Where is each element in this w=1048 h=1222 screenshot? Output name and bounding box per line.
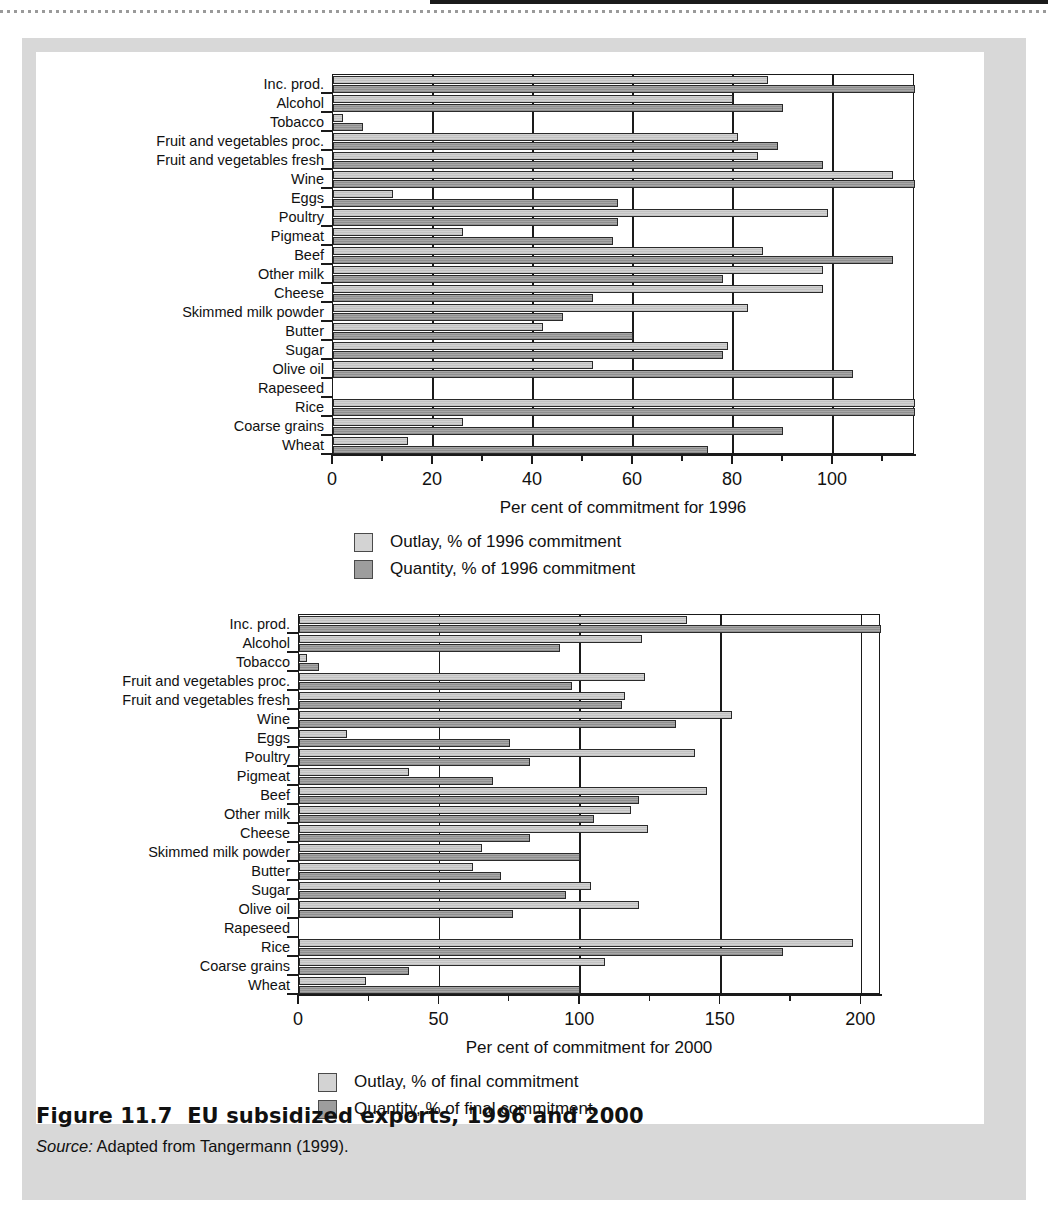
x-axis-tick-major bbox=[431, 454, 432, 464]
bar-outlay bbox=[299, 654, 307, 661]
legend-label: Outlay, % of final commitment bbox=[354, 1072, 579, 1092]
category-label: Fruit and vegetables fresh bbox=[0, 693, 290, 708]
bar-outlay bbox=[333, 190, 393, 197]
x-axis-tick-label: 50 bbox=[429, 1009, 449, 1030]
bar-quantity bbox=[333, 332, 633, 339]
category-label: Butter bbox=[24, 324, 324, 339]
gridline bbox=[532, 75, 534, 453]
y-axis-tick bbox=[321, 206, 332, 207]
legend-swatch-quantity bbox=[354, 560, 373, 579]
bar-outlay bbox=[333, 171, 893, 178]
gridline bbox=[432, 75, 434, 453]
chart-1996: Inc. prod.AlcoholTobaccoFruit and vegeta… bbox=[36, 52, 984, 552]
category-label: Rapeseed bbox=[24, 381, 324, 396]
bar-outlay bbox=[333, 247, 763, 254]
bar-quantity bbox=[333, 142, 778, 149]
y-axis-tick bbox=[287, 974, 298, 975]
y-axis-tick bbox=[321, 434, 332, 435]
y-axis-tick bbox=[321, 225, 332, 226]
y-axis-tick bbox=[287, 765, 298, 766]
y-axis-tick bbox=[287, 955, 298, 956]
x-axis-tick-label: 100 bbox=[564, 1009, 594, 1030]
category-label: Fruit and vegetables proc. bbox=[24, 134, 324, 149]
bar-quantity bbox=[299, 948, 783, 955]
gridline bbox=[579, 615, 581, 993]
x-axis-tick-label: 60 bbox=[622, 469, 642, 490]
bar-quantity bbox=[333, 351, 723, 358]
bar-quantity bbox=[333, 123, 363, 130]
y-axis-tick bbox=[287, 632, 298, 633]
category-label: Wine bbox=[0, 712, 290, 727]
chart-2000: Inc. prod.AlcoholTobaccoFruit and vegeta… bbox=[36, 592, 984, 1122]
y-axis-tick bbox=[287, 936, 298, 937]
category-label: Other milk bbox=[24, 267, 324, 282]
bar-outlay bbox=[299, 939, 853, 946]
bar-outlay bbox=[333, 228, 463, 235]
legend-label: Outlay, % of 1996 commitment bbox=[390, 532, 621, 552]
page-top-solid-rule bbox=[430, 0, 1048, 4]
y-axis-tick bbox=[321, 263, 332, 264]
bar-quantity bbox=[333, 427, 783, 434]
legend-swatch-outlay bbox=[354, 533, 373, 552]
x-axis-tick-label: 0 bbox=[327, 469, 337, 490]
y-axis-tick bbox=[287, 917, 298, 918]
bar-quantity bbox=[333, 446, 708, 453]
bar-outlay bbox=[299, 825, 648, 832]
y-axis-tick bbox=[321, 149, 332, 150]
category-label: Coarse grains bbox=[24, 419, 324, 434]
bar-outlay bbox=[299, 863, 473, 870]
category-label: Cheese bbox=[24, 286, 324, 301]
x-axis-title: Per cent of commitment for 2000 bbox=[466, 1038, 713, 1058]
bar-quantity bbox=[333, 256, 893, 263]
y-axis-tick bbox=[321, 282, 332, 283]
x-axis-tick-major bbox=[297, 994, 298, 1004]
y-axis-tick bbox=[321, 130, 332, 131]
category-label: Olive oil bbox=[24, 362, 324, 377]
bar-outlay bbox=[333, 133, 738, 140]
figure-caption: Figure 11.7 EU subsidized exports, 1996 … bbox=[36, 1104, 996, 1156]
category-label: Alcohol bbox=[0, 636, 290, 651]
y-axis-tick bbox=[321, 187, 332, 188]
bar-quantity bbox=[333, 104, 783, 111]
y-axis-tick bbox=[321, 244, 332, 245]
bar-quantity bbox=[299, 739, 510, 746]
category-label: Other milk bbox=[0, 807, 290, 822]
x-axis-title: Per cent of commitment for 1996 bbox=[500, 498, 747, 518]
category-label: Eggs bbox=[0, 731, 290, 746]
source-label: Source: bbox=[36, 1137, 93, 1155]
gridline bbox=[439, 615, 441, 993]
x-axis-tick-minor bbox=[381, 454, 382, 461]
category-label: Butter bbox=[0, 864, 290, 879]
y-axis-tick bbox=[321, 111, 332, 112]
category-label: Wine bbox=[24, 172, 324, 187]
x-axis-tick-minor bbox=[368, 994, 369, 1001]
bar-quantity bbox=[299, 853, 580, 860]
bar-quantity bbox=[333, 180, 915, 187]
category-label: Tobacco bbox=[0, 655, 290, 670]
bar-quantity bbox=[333, 275, 723, 282]
category-label: Beef bbox=[0, 788, 290, 803]
category-label: Eggs bbox=[24, 191, 324, 206]
bar-quantity bbox=[333, 199, 618, 206]
x-axis-tick-label: 100 bbox=[817, 469, 847, 490]
y-axis-tick bbox=[321, 396, 332, 397]
bar-quantity bbox=[299, 777, 493, 784]
y-axis-tick bbox=[287, 841, 298, 842]
x-axis-tick-label: 150 bbox=[705, 1009, 735, 1030]
bar-outlay bbox=[333, 418, 463, 425]
bar-quantity bbox=[299, 758, 530, 765]
x-axis-line bbox=[332, 454, 916, 456]
bar-quantity bbox=[299, 891, 566, 898]
x-axis-tick-minor bbox=[649, 994, 650, 1001]
y-axis-tick bbox=[287, 727, 298, 728]
x-axis-line bbox=[298, 994, 882, 996]
figure-title: Figure 11.7 EU subsidized exports, 1996 … bbox=[36, 1104, 996, 1128]
x-axis-tick-major bbox=[719, 994, 720, 1004]
bar-outlay bbox=[333, 361, 593, 368]
bar-outlay bbox=[333, 95, 733, 102]
bar-outlay bbox=[333, 266, 823, 273]
category-label: Sugar bbox=[0, 883, 290, 898]
bar-quantity bbox=[333, 161, 823, 168]
x-axis-tick-major bbox=[578, 994, 579, 1004]
category-label: Wheat bbox=[24, 438, 324, 453]
